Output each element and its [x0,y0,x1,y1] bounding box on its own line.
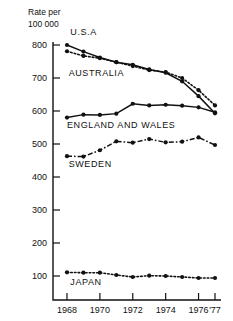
y-tick-label: 300 [32,205,47,215]
data-point [65,43,69,47]
data-point [98,113,102,117]
data-point [81,50,85,54]
data-point [114,112,118,116]
data-point [65,270,69,274]
series-line [67,51,215,105]
data-point [164,70,168,74]
series-label: U.S.A [70,27,97,37]
data-point [81,154,85,158]
data-point [131,64,135,68]
x-tick-label: 1970 [90,305,110,315]
data-point [131,102,135,106]
data-point [196,276,200,280]
data-point [147,274,151,278]
data-point [180,140,184,144]
y-tick-label: 100 [32,271,47,281]
data-point [81,113,85,117]
data-point [164,103,168,107]
data-point [147,137,151,141]
data-point [147,68,151,72]
series-label: AUSTRALIA [69,68,124,78]
data-point [131,141,135,145]
data-point [196,105,200,109]
series-england-and-wales [65,102,217,120]
chart-canvas: Rate per 100 000 10020030040050060070080… [0,0,233,321]
series-australia [65,49,217,107]
data-point [164,140,168,144]
data-point [180,275,184,279]
axis-lines [53,42,221,300]
data-point [213,103,217,107]
y-tick-label: 400 [32,172,47,182]
data-point [180,104,184,108]
data-point [81,271,85,275]
data-point [196,94,200,98]
data-point [65,49,69,53]
y-tick-label: 700 [32,73,47,83]
series-line [67,137,215,156]
data-point [81,54,85,58]
data-point [98,148,102,152]
x-tick-label: 1974 [156,305,176,315]
data-point [164,274,168,278]
y-axis-ticks: 100200300400500600700800 [32,40,60,281]
data-point [98,271,102,275]
series-label: JAPAN [70,277,101,287]
x-tick-label: 1972 [123,305,143,315]
data-point [180,76,184,80]
y-tick-label: 200 [32,238,47,248]
data-point [114,60,118,64]
y-axis-title-line1: Rate per [28,7,61,17]
series-sweden [65,135,217,158]
data-point [213,276,217,280]
series-line [67,104,215,118]
data-point [213,110,217,114]
x-tick-label: 1976 [189,305,209,315]
data-point [65,154,69,158]
x-tick-label: '77 [209,305,221,315]
x-tick-label: 1968 [57,305,77,315]
data-point [147,103,151,107]
series-label: ENGLAND AND WALES [67,120,175,130]
data-point [196,88,200,92]
series-label: SWEDEN [69,159,112,169]
data-point [213,143,217,147]
data-point [131,275,135,279]
series-line [67,45,215,113]
y-tick-label: 600 [32,106,47,116]
line-chart: Rate per 100 000 10020030040050060070080… [0,0,233,321]
data-point [98,56,102,60]
x-axis-ticks: 19681970197219741976'77 [57,293,221,315]
y-tick-label: 500 [32,139,47,149]
y-axis-title-line2: 100 000 [28,19,59,29]
data-point [114,273,118,277]
data-point [114,139,118,143]
data-point [65,116,69,120]
data-point [196,135,200,139]
y-tick-label: 800 [32,40,47,50]
